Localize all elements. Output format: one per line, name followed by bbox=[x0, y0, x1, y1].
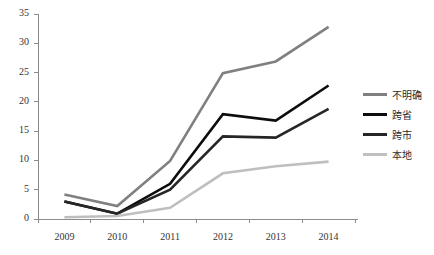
legend-label: 不明确 bbox=[392, 87, 422, 102]
series-line-0 bbox=[64, 27, 328, 206]
y-axis-tick-label: 10 bbox=[5, 153, 29, 164]
line-chart: 05101520253035 200920102011201220132014 … bbox=[0, 0, 434, 255]
y-axis-tick-label: 30 bbox=[5, 36, 29, 47]
chart-series bbox=[64, 27, 328, 217]
series-line-1 bbox=[64, 85, 328, 213]
legend-swatch-icon bbox=[363, 113, 387, 116]
y-axis-tick-label: 25 bbox=[5, 66, 29, 77]
y-axis-tick-label: 35 bbox=[5, 7, 29, 18]
legend-label: 跨省 bbox=[392, 107, 412, 122]
legend-swatch-icon bbox=[363, 153, 387, 156]
legend-item-0[interactable]: 不明确 bbox=[363, 84, 434, 104]
legend-item-2[interactable]: 跨市 bbox=[363, 124, 434, 144]
legend-label: 跨市 bbox=[392, 127, 412, 142]
y-axis-tick-label: 15 bbox=[5, 124, 29, 135]
series-line-2 bbox=[64, 109, 328, 214]
y-axis-tick-label: 5 bbox=[5, 183, 29, 194]
x-axis-tick-label: 2010 bbox=[95, 231, 139, 242]
x-axis-tick-label: 2009 bbox=[42, 231, 86, 242]
x-axis-tick-label: 2013 bbox=[254, 231, 298, 242]
x-axis-tick-label: 2012 bbox=[201, 231, 245, 242]
chart-legend: 不明确跨省跨市本地 bbox=[363, 84, 434, 164]
y-axis-tick-label: 20 bbox=[5, 95, 29, 106]
y-axis-tick-label: 0 bbox=[5, 212, 29, 223]
legend-swatch-icon bbox=[363, 133, 387, 136]
legend-item-3[interactable]: 本地 bbox=[363, 144, 434, 164]
x-axis-tick-label: 2014 bbox=[307, 231, 351, 242]
legend-item-1[interactable]: 跨省 bbox=[363, 104, 434, 124]
series-line-3 bbox=[64, 162, 328, 218]
legend-label: 本地 bbox=[392, 147, 412, 162]
x-axis-tick-label: 2011 bbox=[148, 231, 192, 242]
legend-swatch-icon bbox=[363, 93, 387, 96]
